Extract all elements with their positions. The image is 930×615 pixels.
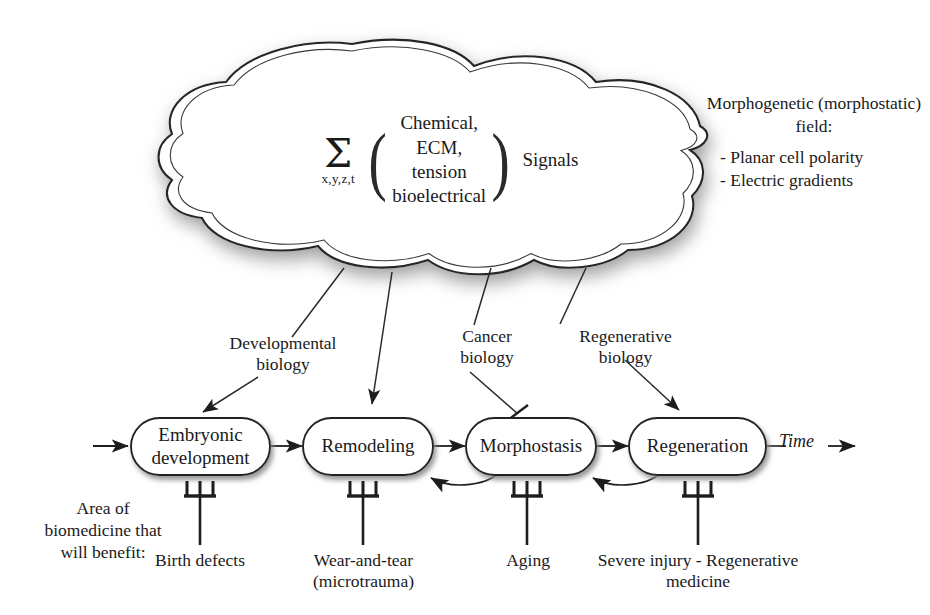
field-note-bullet: - Electric gradients — [720, 169, 922, 192]
stem-remodeling — [347, 481, 379, 545]
bottom-label-wear-and-tear: Wear-and-tear (microtrauma) — [286, 550, 441, 593]
signals-word: Signals — [522, 149, 578, 171]
field-note-bullets: - Planar cell polarity - Electric gradie… — [706, 146, 922, 193]
stem-embryonic-development — [184, 481, 216, 545]
morphogenetic-field-note: Morphogenetic (morphostatic) field: - Pl… — [706, 92, 922, 193]
stem-morphostasis — [511, 481, 543, 545]
sigma-subscript: x,y,z,t — [322, 172, 355, 185]
node-regeneration[interactable] — [629, 418, 766, 475]
signal-terms: Chemical, ECM, tension bioelectrical — [390, 111, 488, 208]
branch-label-regenerative-biology: Regenerative biology — [553, 326, 698, 369]
summation-symbol: Σ x,y,z,t — [322, 135, 355, 185]
branch-label-developmental-biology: Developmental biology — [208, 333, 358, 376]
sigma-glyph: Σ — [324, 135, 352, 171]
connector-cloud-to-remodeling — [372, 272, 392, 404]
field-note-bullet: - Planar cell polarity — [720, 146, 922, 169]
benefit-note: Area of biomedicine that will benefit: — [38, 497, 168, 563]
left-paren: ( — [368, 122, 386, 198]
bottom-label-aging: Aging — [485, 550, 571, 571]
node-embryonic-development[interactable] — [131, 418, 270, 475]
signal-term: bioelectrical — [392, 184, 486, 208]
branch-label-cancer-biology: Cancer biology — [441, 326, 533, 369]
signal-term: tension — [412, 160, 467, 184]
time-axis-label: Time — [779, 431, 814, 452]
field-note-title: Morphogenetic (morphostatic) field: — [706, 92, 922, 139]
signals-formula: Σ x,y,z,t ( Chemical, ECM, tension bioel… — [300, 100, 600, 220]
node-morphostasis[interactable] — [466, 418, 596, 475]
right-paren: ) — [492, 122, 510, 198]
signal-term: ECM, — [416, 136, 462, 160]
node-remodeling[interactable] — [303, 418, 433, 475]
bottom-label-birth-defects: Birth defects — [150, 550, 250, 571]
signal-term: Chemical, — [400, 111, 478, 135]
bottom-label-severe-injury: Severe injury - Regenerative medicine — [592, 550, 804, 593]
stem-regeneration — [682, 481, 714, 545]
